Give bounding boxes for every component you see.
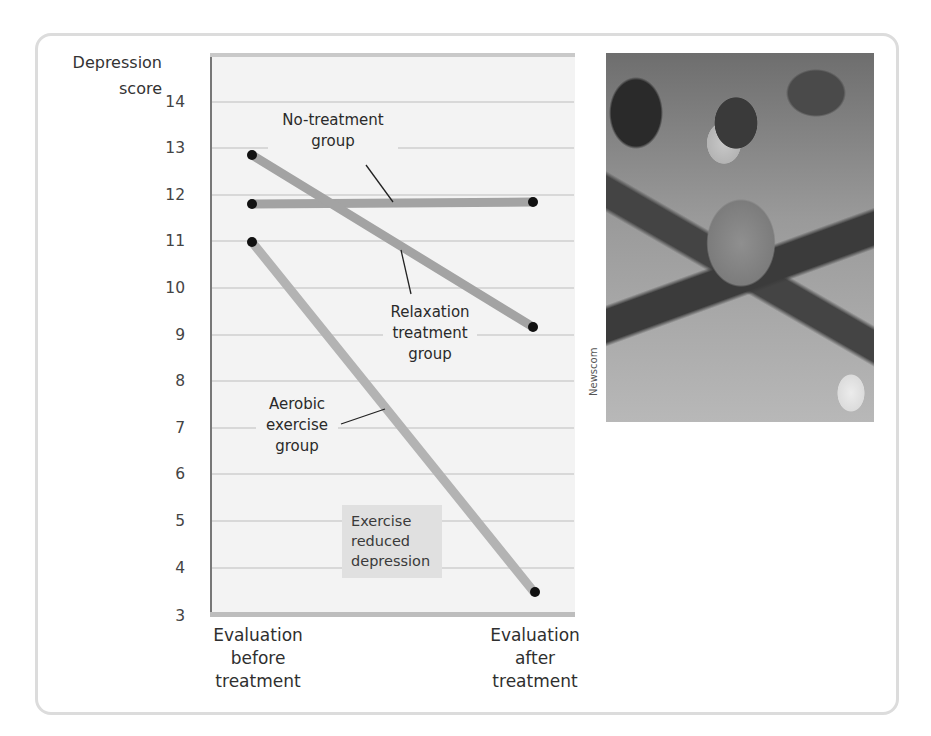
label-aerobic-line1: Aerobic [258,394,336,415]
y-tick-14: 14 [145,93,185,111]
y-tick-11: 11 [145,232,185,250]
exercise-photo [606,53,874,422]
callout-line2: reduced [351,531,442,551]
label-relaxation-line1: Relaxation [385,302,475,323]
label-relaxation-line3: group [385,344,475,365]
x-after-line2: after [474,647,596,670]
callout-line3: depression [351,551,442,571]
y-tick-8: 8 [145,372,185,390]
x-before-line2: before [196,647,320,670]
label-no-treatment-line2: group [270,131,396,152]
x-after-line3: treatment [474,670,596,693]
label-no-treatment-line1: No-treatment [270,110,396,131]
label-aerobic-line2: exercise [258,415,336,436]
y-tick-3: 3 [145,607,185,625]
label-aerobic-line3: group [258,436,336,457]
y-tick-10: 10 [145,279,185,297]
y-tick-6: 6 [145,465,185,483]
y-axis-label-line1: Depression [73,50,162,76]
callout-line1: Exercise [351,511,442,531]
y-tick-13: 13 [145,139,185,157]
label-no-treatment: No-treatment group [270,110,396,152]
label-relaxation-line2: treatment [385,323,475,344]
y-tick-4: 4 [145,559,185,577]
callout-exercise-reduced-depression: Exercise reduced depression [342,505,442,578]
y-tick-12: 12 [145,186,185,204]
x-axis-baseline [210,612,575,617]
x-category-before: Evaluation before treatment [196,624,320,693]
y-tick-5: 5 [145,512,185,530]
label-aerobic: Aerobic exercise group [258,394,336,457]
x-category-after: Evaluation after treatment [474,624,596,693]
x-before-line1: Evaluation [196,624,320,647]
x-before-line3: treatment [196,670,320,693]
x-after-line1: Evaluation [474,624,596,647]
label-relaxation: Relaxation treatment group [385,302,475,365]
plot-top-border [210,53,575,57]
photo-credit: Newscom [588,348,599,396]
y-tick-7: 7 [145,419,185,437]
y-tick-9: 9 [145,326,185,344]
